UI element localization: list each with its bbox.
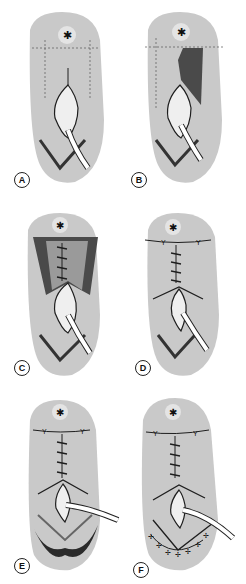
panel-c: ✱ C bbox=[0, 195, 123, 390]
svg-text:Y: Y bbox=[42, 428, 47, 435]
panel-label-e: E bbox=[14, 558, 30, 574]
svg-text:✱: ✱ bbox=[56, 407, 64, 418]
svg-text:✢: ✢ bbox=[175, 551, 181, 558]
svg-text:✱: ✱ bbox=[169, 222, 177, 233]
svg-text:✱: ✱ bbox=[56, 220, 64, 231]
panel-label-d: D bbox=[135, 360, 151, 376]
illustration-e: ✱ Y Y bbox=[0, 390, 123, 584]
panel-label-f: F bbox=[133, 562, 149, 578]
svg-text:Y: Y bbox=[196, 239, 201, 246]
panel-b: ✱ B bbox=[123, 0, 246, 195]
panel-a: ✱ A bbox=[0, 0, 123, 195]
svg-text:Y: Y bbox=[161, 239, 166, 246]
svg-text:✱: ✱ bbox=[169, 407, 177, 418]
svg-text:Y: Y bbox=[80, 428, 85, 435]
illustration-f: ✱ Y Y ✢✢✢ ✢✢✢✢ bbox=[123, 390, 246, 584]
illustration-b: ✱ bbox=[123, 0, 246, 195]
panel-d: ✱ Y Y D bbox=[123, 195, 246, 390]
svg-text:✢: ✢ bbox=[185, 548, 191, 555]
panel-label-c: C bbox=[14, 360, 30, 376]
svg-text:✢: ✢ bbox=[203, 532, 209, 539]
svg-text:✢: ✢ bbox=[165, 549, 171, 556]
svg-text:✢: ✢ bbox=[156, 542, 162, 549]
svg-text:✱: ✱ bbox=[177, 26, 186, 38]
panel-f: ✱ Y Y ✢✢✢ ✢✢✢✢ F bbox=[123, 390, 246, 584]
svg-text:Y: Y bbox=[153, 430, 158, 437]
svg-text:✢: ✢ bbox=[195, 541, 201, 548]
svg-text:✱: ✱ bbox=[63, 29, 72, 41]
panel-label-b: B bbox=[131, 172, 147, 188]
panel-label-a: A bbox=[14, 172, 30, 188]
svg-text:✢: ✢ bbox=[148, 533, 154, 540]
panel-e: ✱ Y Y E bbox=[0, 390, 123, 584]
svg-text:Y: Y bbox=[193, 430, 198, 437]
illustration-a: ✱ bbox=[0, 0, 123, 195]
